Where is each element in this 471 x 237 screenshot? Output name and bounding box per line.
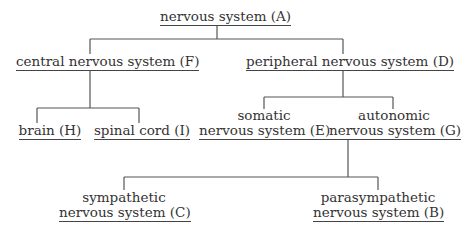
node-somatic-nervous-system: somatic nervous system (E) [199,108,329,140]
node-sympathetic-nervous-system: sympathetic nervous system (C) [59,190,189,222]
node-label-line1: sympathetic [59,190,189,205]
node-central-nervous-system: central nervous system (F) [16,54,194,71]
node-label: central nervous system (F) [16,54,199,71]
node-nervous-system: nervous system (A) [160,9,284,26]
node-label: brain (H) [19,123,82,140]
node-label-line1: somatic [199,108,329,123]
node-parasympathetic-nervous-system: parasympathetic nervous system (B) [313,190,443,222]
node-label-line1: autonomic [329,108,459,123]
node-label: nervous system (A) [160,9,291,26]
node-label-line2: nervous system (C) [59,205,191,222]
node-label: spinal cord (I) [94,123,190,140]
node-label: peripheral nervous system (D) [246,54,454,71]
node-autonomic-nervous-system: autonomic nervous system (G) [329,108,459,140]
node-label-line2: nervous system (G) [329,123,461,140]
node-spinal-cord: spinal cord (I) [92,123,192,140]
node-label-line2: nervous system (E) [199,123,330,140]
nervous-system-tree-diagram: nervous system (A) central nervous syste… [0,0,471,237]
node-label-line2: nervous system (B) [313,205,444,222]
node-peripheral-nervous-system: peripheral nervous system (D) [246,54,446,71]
node-label-line1: parasympathetic [313,190,443,205]
node-brain: brain (H) [12,123,88,140]
